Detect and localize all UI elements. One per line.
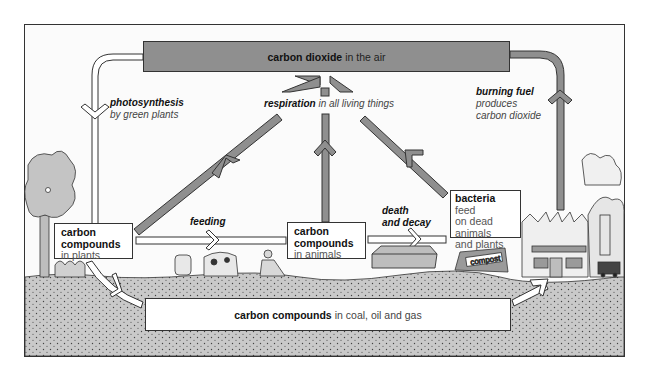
plants-line1: carbon <box>61 227 126 239</box>
fossil-bold: carbon compounds <box>234 309 331 321</box>
animals-line1: carbon <box>294 226 359 238</box>
death-line1: death <box>382 205 409 216</box>
bacteria-bold: bacteria <box>455 192 495 204</box>
photosynthesis-label: photosynthesis by green plants <box>110 97 184 121</box>
compost-heap-icon: compost <box>455 248 508 272</box>
photosynthesis-bold: photosynthesis <box>110 97 184 108</box>
cow-icon <box>175 252 238 276</box>
coffin-icon <box>372 246 437 268</box>
feeding-text: feeding <box>190 216 226 227</box>
burning-bold: burning fuel <box>476 86 534 97</box>
co2-box-bold: carbon dioxide <box>268 51 343 63</box>
fossil-fuels-box: carbon compounds in coal, oil and gas <box>145 298 511 331</box>
carbon-in-animals-box: carbon compounds in animals <box>287 222 366 259</box>
respiration-label: respiration in all living things <box>264 98 394 110</box>
burning-line3: carbon dioxide <box>476 110 541 121</box>
feeding-label: feeding <box>190 216 226 228</box>
fossil-rest: in coal, oil and gas <box>335 309 422 321</box>
plants-line3: in plants <box>61 249 100 261</box>
photosynthesis-rest: by green plants <box>110 109 178 120</box>
carbon-in-plants-box: carbon compounds in plants <box>54 223 133 259</box>
bacteria-line4: and plants <box>455 239 516 251</box>
burning-fuel-label: burning fuel produces carbon dioxide <box>476 86 541 122</box>
bacteria-line2: on dead <box>455 216 516 228</box>
co2-box-rest: in the air <box>345 51 385 63</box>
respiration-bold: respiration <box>264 98 316 109</box>
death-decay-label: death and decay <box>382 205 431 229</box>
burning-line2: produces <box>476 98 517 109</box>
factory-icon <box>522 212 588 277</box>
co2-in-air-box: carbon dioxide in the air <box>143 41 510 72</box>
bacteria-box: bacteria feed on dead animals and plants <box>450 190 521 238</box>
death-line2: and decay <box>382 217 431 228</box>
animals-line3: in animals <box>294 248 341 260</box>
bacteria-line1-rest: feed <box>455 204 475 216</box>
respiration-rest: in all living things <box>318 98 394 109</box>
